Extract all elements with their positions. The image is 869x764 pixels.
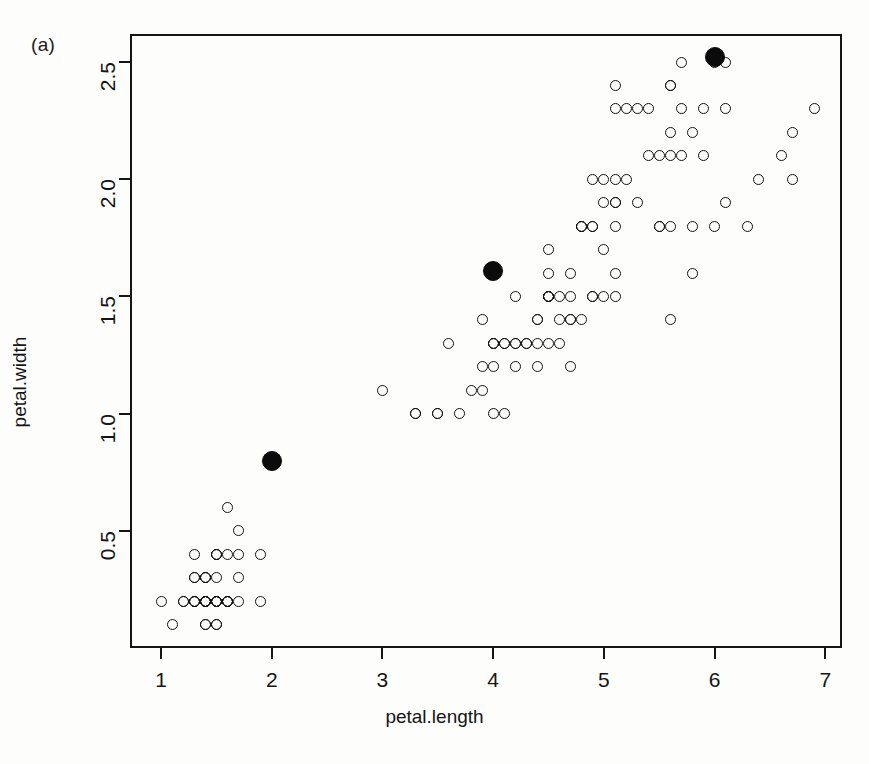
x-axis-tick-label: 3 — [377, 668, 389, 692]
y-axis-tick-label: 2.5 — [96, 62, 120, 91]
y-axis-label: petal.width — [9, 337, 31, 428]
x-axis-tick-label: 1 — [155, 668, 167, 692]
y-axis-tick — [119, 295, 130, 297]
y-axis-tick-label: 1.5 — [96, 296, 120, 325]
x-axis-tick — [492, 648, 494, 659]
plot-frame — [130, 34, 842, 648]
x-axis-tick-label: 5 — [598, 668, 610, 692]
x-axis-tick-label: 6 — [709, 668, 721, 692]
x-axis-tick — [824, 648, 826, 659]
y-axis-tick — [119, 530, 130, 532]
x-axis-tick-label: 2 — [266, 668, 278, 692]
x-axis-tick — [381, 648, 383, 659]
y-axis-tick-label: 0.5 — [96, 531, 120, 560]
y-axis-tick-label: 2.0 — [96, 179, 120, 208]
y-axis-tick — [119, 61, 130, 63]
x-axis-tick-label: 4 — [487, 668, 499, 692]
figure-panel: (a) 12345670.51.01.52.02.5 petal.length … — [0, 0, 869, 764]
x-axis-tick — [603, 648, 605, 659]
x-axis-tick-label: 7 — [820, 668, 832, 692]
x-axis-tick — [714, 648, 716, 659]
x-axis-label: petal.length — [0, 706, 869, 728]
y-axis-tick — [119, 178, 130, 180]
x-axis-tick — [160, 648, 162, 659]
y-axis-tick-label: 1.0 — [96, 414, 120, 443]
y-axis-tick — [119, 413, 130, 415]
y-axis-label-wrap: petal.width — [0, 0, 40, 764]
x-axis-tick — [271, 648, 273, 659]
